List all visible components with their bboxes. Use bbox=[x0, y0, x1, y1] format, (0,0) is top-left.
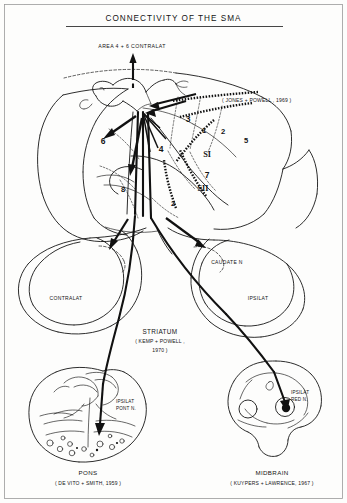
midbrain-citation: ( KUYPERS + LAWRENCE, 1967 ) bbox=[230, 480, 313, 486]
cortex-label-sii: SII bbox=[198, 184, 209, 193]
striatum-title: STRIATUM bbox=[143, 328, 178, 335]
cortex-area-label-8: 8 bbox=[121, 185, 125, 194]
page-title: CONNECTIVITY OF THE SMA bbox=[106, 14, 242, 23]
arrow-to-ipsilateral-caudate bbox=[166, 218, 206, 248]
pontine-nucleus-label-line1: IPSILAT bbox=[116, 399, 134, 404]
cortex-area-label-3: 3 bbox=[186, 114, 191, 124]
cortex-area-label-2-upper: 2 bbox=[221, 127, 225, 136]
cortex-area-label-2-lower: 2 bbox=[171, 199, 175, 208]
cortex-area-label-7: 7 bbox=[205, 170, 210, 180]
cortex-area-label-4: 4 bbox=[159, 144, 164, 154]
area8-loop-fiber bbox=[110, 167, 143, 194]
arrow-to-red-nucleus bbox=[274, 372, 290, 412]
pontine-nucleus-label-line2: PONT N. bbox=[116, 406, 136, 411]
sma-afferent-arrow-from-parietal bbox=[149, 94, 196, 110]
figure-canvas: CONNECTIVITY OF THE SMA AREA 4 + 6 CONTR… bbox=[0, 0, 347, 503]
pons-title: PONS bbox=[79, 469, 98, 476]
striatum-contralateral-label: CONTRALAT bbox=[49, 295, 82, 301]
red-nucleus-label-line1: IPSILAT bbox=[291, 390, 309, 395]
descending-path-left-lower bbox=[103, 318, 119, 384]
midline-dashed bbox=[64, 69, 176, 78]
cortex-label-si: SI bbox=[203, 150, 211, 159]
striatum-citation-line1: ( KEMP + POWELL , bbox=[135, 338, 185, 344]
cortex-citation: ( JONES + POWELL , 1969 ) bbox=[222, 97, 292, 103]
cortex-area-label-1: 1 bbox=[202, 126, 207, 135]
top-arrow-label: AREA 4 + 6 CONTRALAT bbox=[98, 43, 166, 49]
red-nucleus-label-line2: RED N. bbox=[291, 397, 308, 402]
caudate-nucleus-label: CAUDATE N bbox=[211, 259, 243, 265]
cortex-area-label-6: 6 bbox=[101, 136, 106, 146]
contralateral-projection-arrow bbox=[129, 53, 136, 88]
sma-connectivity-diagram: CONNECTIVITY OF THE SMA AREA 4 + 6 CONTR… bbox=[0, 0, 347, 503]
cortical-field-boundaries bbox=[100, 97, 236, 218]
midbrain-title: MIDBRAIN bbox=[255, 469, 288, 476]
striatum-section-outline bbox=[18, 228, 304, 337]
cortex-area-label-5: 5 bbox=[244, 136, 249, 145]
striatum-citation-line2: 1970 ) bbox=[152, 347, 168, 353]
striatum-ipsilateral-label: IPSILAT bbox=[248, 295, 269, 301]
pons-section-outline bbox=[29, 367, 147, 462]
descending-path-right bbox=[151, 218, 226, 314]
pons-citation: ( DE VITO + SMITH, 1959 ) bbox=[55, 480, 121, 486]
pons-internal-structures bbox=[40, 372, 135, 457]
